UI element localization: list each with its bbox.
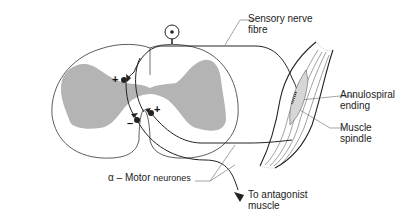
label-motor-neurones: α – Motor neurones	[108, 172, 191, 184]
label-line: ending	[340, 100, 395, 111]
label-line: Annulospiral	[340, 89, 395, 100]
reflex-arc-diagram	[0, 0, 417, 224]
label-part: neurones	[153, 173, 191, 183]
label-line: To antagonist	[248, 189, 308, 200]
label-part: α – Motor	[108, 172, 150, 183]
label-muscle-spindle: Muscle spindle	[340, 122, 372, 144]
sensory-nerve-fibre	[212, 46, 297, 95]
label-antagonist: To antagonist muscle	[248, 189, 308, 211]
label-line: Muscle	[340, 122, 372, 133]
label-line: spindle	[340, 133, 372, 144]
label-line: fibre	[248, 24, 312, 35]
label-line: muscle	[248, 200, 308, 211]
grey-matter	[61, 60, 226, 131]
inhibitory-sign: –	[127, 118, 133, 128]
label-annulospiral: Annulospiral ending	[340, 89, 395, 111]
excitatory-sign-right: +	[154, 104, 160, 114]
label-sensory-nerve: Sensory nerve fibre	[248, 13, 312, 35]
label-line: Sensory nerve	[248, 13, 312, 24]
excitatory-sign-upper: +	[112, 74, 118, 84]
arrow-head-icon	[234, 192, 244, 202]
neuron-body-upper	[121, 77, 127, 83]
